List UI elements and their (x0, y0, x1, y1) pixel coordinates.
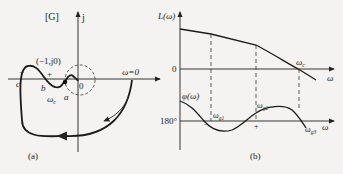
phase-ref-label: 180° (160, 116, 178, 126)
minus-one-label: (−1,j0) (36, 56, 61, 66)
imag-axis-label: j (81, 12, 85, 23)
sign-plus: + (47, 69, 52, 79)
omega-c-label: ωc (47, 94, 56, 105)
sign-minus: − (204, 120, 209, 129)
phase-axis-label: φ(ω) (182, 91, 199, 101)
crossing-b-label: b (41, 83, 46, 93)
omega-c-label: ωc (296, 57, 305, 68)
plane-title: [G] (45, 11, 59, 22)
origin-label: 0 (79, 81, 84, 91)
omega-axis-label-top: ω (327, 73, 333, 83)
nyquist-curve-outer (22, 80, 132, 136)
phase-curve (180, 101, 306, 131)
zero-label: 0 (172, 64, 177, 74)
nyquist-panel: [G] j (−1,j0) ω=0 0 c b a ωc − + (a) (8, 11, 160, 161)
omega-g2-label: ωg2 (257, 101, 268, 111)
omega-g3-label: ωg3 (305, 125, 316, 135)
omega-zero-label: ω=0 (122, 67, 139, 77)
crossing-a-label: a (64, 92, 69, 102)
magnitude-curve (180, 29, 316, 80)
caption-a: (a) (28, 151, 38, 161)
sign-plus: + (254, 122, 259, 131)
crossing-c-label: c (16, 79, 20, 89)
omega-g1-label: ωg1 (213, 111, 224, 121)
caption-b: (b) (250, 151, 261, 161)
sign-minus: − (19, 67, 24, 77)
omega-axis-label-bottom: ω (322, 122, 328, 132)
magnitude-axis-label: L(ω) (157, 11, 175, 21)
minus-one-point (63, 80, 67, 84)
nyquist-bode-figure: [G] j (−1,j0) ω=0 0 c b a ωc − + (a) L(ω… (0, 0, 343, 174)
bode-panel: L(ω) 0 ω ωc φ(ω) 180° ω ωg1 ωg2 ωg3 − + … (157, 11, 334, 161)
